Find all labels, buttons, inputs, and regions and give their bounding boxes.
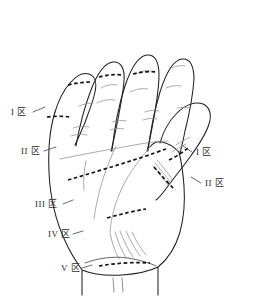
leader-left-1 bbox=[33, 107, 45, 112]
zone-dash-wrist bbox=[99, 263, 150, 266]
crease-middle-dip bbox=[101, 85, 117, 88]
skin-crease-group bbox=[60, 66, 190, 292]
zone-label-right-2: II 区 bbox=[205, 179, 224, 188]
crease-wrist-fan-1 bbox=[110, 233, 119, 259]
leader-left-2 bbox=[44, 147, 56, 151]
leader-left-3 bbox=[63, 200, 73, 204]
zone-label-left-1: I 区 bbox=[11, 108, 27, 117]
crease-wrist-fan-5 bbox=[132, 232, 146, 255]
hand-zone-diagram: I 区 II 区 III 区 IV 区 V 区 I 区 II 区 bbox=[0, 0, 255, 300]
zone-label-left-5-text: V 区 bbox=[61, 263, 80, 273]
crease-wrist-contour bbox=[85, 257, 156, 266]
zone-label-left-4: IV 区 bbox=[48, 230, 71, 239]
crease-thenar-life-line bbox=[110, 147, 150, 232]
crease-thumb-base-1 bbox=[157, 160, 172, 179]
zone-label-left-1-text: I 区 bbox=[11, 107, 27, 117]
zone-label-left-5: V 区 bbox=[61, 264, 80, 273]
crease-ring-prox bbox=[143, 118, 157, 120]
zone-dash-distal-palmar bbox=[68, 149, 166, 180]
crease-ring-mid bbox=[145, 110, 159, 112]
leader-left-5 bbox=[82, 265, 92, 268]
crease-thumb-base-2 bbox=[155, 163, 170, 182]
zone-label-right-2-text: II 区 bbox=[205, 178, 224, 188]
crease-ring-pip bbox=[130, 89, 148, 92]
zone-label-left-2: II 区 bbox=[21, 147, 40, 156]
crease-index-mid bbox=[73, 126, 89, 128]
middle-finger-outline bbox=[76, 62, 124, 151]
zone-label-right-1-text: I 区 bbox=[196, 147, 212, 157]
leader-left-4 bbox=[73, 231, 83, 234]
crease-middle-mid bbox=[112, 120, 126, 122]
crease-thumb-ip bbox=[176, 137, 190, 145]
crease-wrist-fan-3 bbox=[120, 231, 133, 257]
leader-right-2 bbox=[191, 177, 201, 183]
crease-middle-pip bbox=[97, 100, 115, 103]
crease-tendon-right bbox=[122, 278, 123, 292]
zone-label-left-3-text: III 区 bbox=[35, 199, 58, 209]
zone-label-right-1: I 区 bbox=[196, 148, 212, 157]
zone-label-left-4-text: IV 区 bbox=[48, 229, 71, 239]
zone-dash-ring bbox=[99, 75, 123, 77]
zone-dash-little bbox=[133, 72, 156, 74]
zone-dash-middle bbox=[68, 82, 92, 85]
ring-finger-outline bbox=[112, 55, 159, 151]
crease-middle-prox bbox=[110, 128, 124, 130]
zone-dash-index bbox=[47, 116, 70, 117]
crease-little-pip bbox=[166, 86, 181, 88]
crease-fate-line bbox=[94, 146, 116, 219]
crease-hypothenar bbox=[84, 161, 86, 190]
zone-label-left-2-text: II 区 bbox=[21, 146, 40, 156]
crease-tendon-left bbox=[113, 278, 114, 292]
leader-right-1 bbox=[183, 146, 192, 152]
zone-label-left-3: III 区 bbox=[35, 200, 58, 209]
